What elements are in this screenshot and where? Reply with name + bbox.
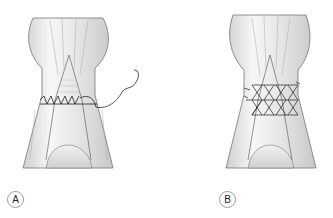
panel-label-b: B [219,191,236,208]
tendon-b [226,15,316,168]
panel-b-illustration [166,0,333,190]
tendon-a [23,18,113,168]
panel-a-illustration [0,0,166,190]
panel-label-a: A [7,191,24,208]
